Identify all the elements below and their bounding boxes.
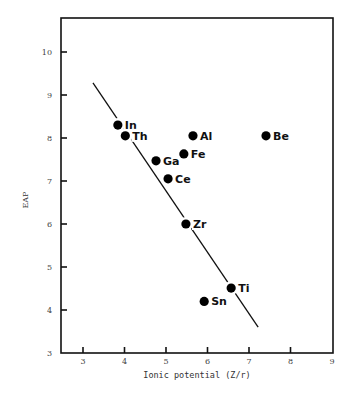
point-marker [227, 283, 236, 292]
data-point-be: Be [259, 129, 290, 143]
y-tick-label: 6 [47, 220, 52, 229]
y-axis-label: EAP [21, 191, 30, 209]
plot-frame [61, 18, 333, 353]
x-tick-label: 7 [246, 357, 251, 366]
x-axis-label: Ionic potential (Z/r) [143, 370, 250, 380]
data-point-ce: Ce [161, 172, 192, 186]
data-point-ga: Ga [149, 154, 180, 168]
y-tick-label: 7 [47, 177, 52, 186]
point-label: Ti [238, 282, 249, 295]
point-label: Fe [191, 148, 206, 161]
x-tick-label: 3 [80, 357, 85, 366]
x-tick-label: 6 [205, 357, 210, 366]
y-tick-label: 5 [47, 263, 52, 272]
data-point-ti: Ti [224, 281, 255, 295]
point-marker [200, 297, 209, 306]
x-tick-label: 9 [329, 357, 334, 366]
point-marker [163, 174, 172, 183]
x-tick-label: 8 [288, 357, 293, 366]
y-tick-label: 4 [47, 306, 52, 315]
x-tick-label: 4 [122, 357, 127, 366]
data-point-fe: Fe [177, 147, 208, 161]
point-label: Al [200, 130, 212, 143]
point-marker [181, 219, 190, 228]
data-point-th: Th [118, 129, 149, 143]
point-label: Ce [175, 173, 191, 186]
data-point-zr: Zr [179, 217, 210, 231]
point-marker [151, 156, 160, 165]
point-marker [261, 131, 270, 140]
point-marker [121, 131, 130, 140]
data-point-al: Al [186, 129, 217, 143]
x-axis-ticks: 3456789 [80, 347, 334, 366]
point-marker [113, 121, 122, 130]
data-point-sn: Sn [197, 294, 228, 308]
point-label: Zr [193, 218, 207, 231]
x-tick-label: 5 [163, 357, 168, 366]
point-label: Ga [163, 155, 179, 168]
point-label: Th [132, 130, 147, 143]
y-tick-label: 10 [42, 48, 52, 57]
y-axis-ticks: 345678910 [42, 48, 67, 358]
y-tick-label: 8 [47, 134, 52, 143]
data-points: InThGaCeFeAlBeZrTiSn [111, 118, 290, 308]
scatter-chart: 345678910 3456789 InThGaCeFeAlBeZrTiSn I… [0, 0, 353, 398]
point-label: Be [273, 130, 289, 143]
point-marker [188, 131, 197, 140]
point-marker [179, 149, 188, 158]
point-label: Sn [211, 295, 227, 308]
y-tick-label: 3 [47, 349, 52, 358]
y-tick-label: 9 [47, 91, 52, 100]
